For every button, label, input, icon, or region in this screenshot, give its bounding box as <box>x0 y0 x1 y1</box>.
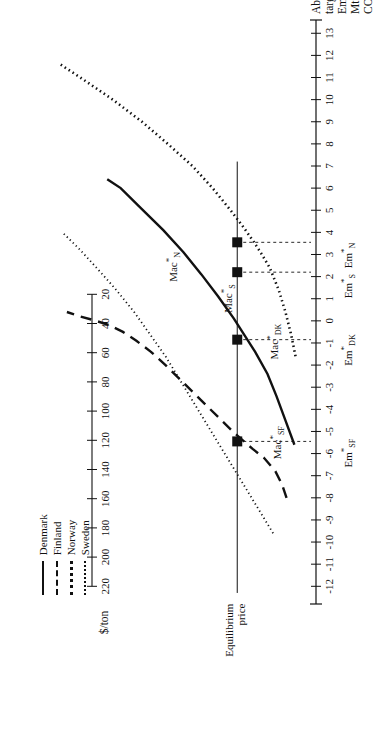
em-label-base: Em <box>342 452 354 467</box>
mac-label-mac-sf: Mac*SF <box>267 426 288 459</box>
y-tick-label: 120 <box>100 427 111 453</box>
series-curve-norway <box>60 64 295 356</box>
em-label-em-n: Em*N <box>338 243 359 269</box>
y-tick-label: 40 <box>100 311 111 337</box>
legend-label-denmark: Denmark <box>36 514 50 555</box>
em-label-em-s: Em*S <box>338 274 359 298</box>
legend-label-sweden: Sweden <box>78 520 92 555</box>
equilibrium-price-label: Equilibrium price <box>223 604 247 688</box>
em-label-star: * <box>339 346 349 351</box>
x-tick-label: -9 <box>324 507 335 533</box>
equilibrium-marker-EmS <box>232 267 242 277</box>
em-label-sub: DK <box>348 334 357 346</box>
x-tick-label: 4 <box>324 219 335 245</box>
mac-label-mac-s: Mac*S <box>218 284 239 313</box>
legend-label-norway: Norway <box>64 520 78 555</box>
x-tick-label: -8 <box>324 485 335 511</box>
x-tick-label: 5 <box>324 197 335 223</box>
y-tick-label: 200 <box>100 544 111 570</box>
x-tick-label: 9 <box>324 109 335 135</box>
chart-legend: DenmarkFinlandNorwaySweden <box>36 514 92 595</box>
y-tick-label: 180 <box>100 515 111 541</box>
mac-label-base: Mac <box>167 262 179 282</box>
x-tick-label: 2 <box>324 264 335 290</box>
x-tick-label: 12 <box>324 42 335 68</box>
em-label-em-sf: Em*SF <box>338 439 359 468</box>
legend-item-denmark: Denmark <box>36 514 50 595</box>
legend-swatch-norway <box>70 561 73 595</box>
x-axis-title-line-2: Emissions <box>336 0 349 14</box>
mac-label-mac-dk: Mac*DK <box>264 324 285 360</box>
legend-label-finland: Finland <box>50 522 64 556</box>
mac-label-mac-n: Mac*N <box>163 252 184 282</box>
legend-swatch-sweden <box>84 561 86 595</box>
x-tick-label: 10 <box>324 87 335 113</box>
x-tick-label: 8 <box>324 131 335 157</box>
em-label-star: * <box>339 249 349 254</box>
mac-label-star: * <box>219 289 229 294</box>
y-tick-label: 160 <box>100 486 111 512</box>
em-label-base: Em <box>342 253 354 268</box>
legend-swatch-denmark <box>42 561 44 595</box>
y-tick-label: 80 <box>100 369 111 395</box>
x-tick-label: -6 <box>324 441 335 467</box>
x-tick-label: 7 <box>324 153 335 179</box>
y-tick-label: 100 <box>100 398 111 424</box>
x-axis-title: Above-target Emissions Mton CO2 <box>310 0 377 14</box>
mac-label-sub: S <box>228 284 237 288</box>
x-tick-label: -10 <box>324 529 335 555</box>
y-tick-label: 60 <box>100 340 111 366</box>
equilibrium-marker-EmSF <box>232 436 242 446</box>
x-tick-label: -5 <box>324 418 335 444</box>
equilibrium-label-line-2: price <box>235 604 247 688</box>
y-tick-label: 20 <box>100 281 111 307</box>
mac-label-sub: N <box>173 252 182 258</box>
mac-label-sub: DK <box>274 324 283 336</box>
mac-label-sub: SF <box>277 426 286 435</box>
legend-item-sweden: Sweden <box>78 514 92 595</box>
em-label-sub: N <box>348 243 357 249</box>
equilibrium-marker-EmN <box>232 237 242 247</box>
x-tick-label: -2 <box>324 352 335 378</box>
em-label-sub: S <box>348 274 357 278</box>
equilibrium-marker-EmDK <box>232 335 242 345</box>
x-tick-label: 6 <box>324 175 335 201</box>
legend-swatch-finland <box>56 561 58 595</box>
em-label-em-dk: Em*DK <box>338 334 359 365</box>
x-tick-label: 1 <box>324 286 335 312</box>
x-tick-label: -4 <box>324 396 335 422</box>
x-tick-label: -3 <box>324 374 335 400</box>
x-tick-label: -12 <box>324 573 335 599</box>
mac-label-star: * <box>265 335 275 340</box>
equilibrium-label-line-1: Equilibrium <box>223 604 235 688</box>
x-tick-label: 11 <box>324 65 335 91</box>
em-label-sub: SF <box>348 439 357 448</box>
em-label-base: Em <box>342 350 354 365</box>
y-tick-label: 220 <box>100 573 111 599</box>
x-tick-label: -7 <box>324 463 335 489</box>
series-curve-denmark <box>107 179 294 444</box>
x-tick-label: -1 <box>324 330 335 356</box>
mac-label-base: Mac <box>222 293 234 313</box>
em-label-star: * <box>339 278 349 283</box>
y-tick-label: 140 <box>100 457 111 483</box>
legend-item-finland: Finland <box>50 514 64 595</box>
x-axis-title-line-1: Above-target <box>310 0 336 14</box>
mac-label-star: * <box>268 435 278 440</box>
em-label-base: Em <box>342 283 354 298</box>
mac-label-star: * <box>164 258 174 263</box>
x-tick-label: 0 <box>324 308 335 334</box>
x-tick-label: -11 <box>324 551 335 577</box>
legend-item-norway: Norway <box>64 514 78 595</box>
mac-label-base: Mac <box>270 440 282 460</box>
em-label-star: * <box>339 448 349 453</box>
x-axis-title-line-3: Mton CO2 <box>349 0 377 14</box>
x-tick-label: 3 <box>324 242 335 268</box>
mac-label-base: Mac <box>268 340 280 360</box>
y-axis-title: $/ton <box>98 611 111 635</box>
x-tick-label: 13 <box>324 20 335 46</box>
